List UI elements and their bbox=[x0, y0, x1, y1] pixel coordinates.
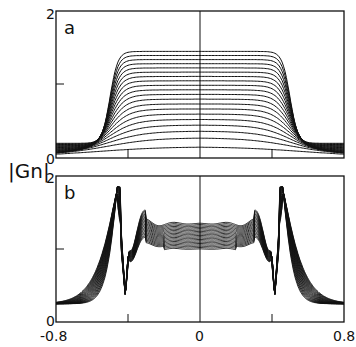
figure: 2 0 2 0 a b |Gn| -0.8 0 0.8 bbox=[0, 0, 356, 347]
panel-b-label: b bbox=[64, 182, 75, 203]
x-tick-left: -0.8 bbox=[40, 328, 67, 344]
x-tick-mid: 0 bbox=[195, 328, 204, 344]
panel-b-ytick-bottom: 0 bbox=[46, 313, 55, 329]
x-tick-right: 0.8 bbox=[333, 328, 355, 344]
y-axis-label: |Gn| bbox=[8, 159, 50, 183]
panel-a-label: a bbox=[64, 17, 75, 38]
panel-a-ytick-top: 2 bbox=[46, 6, 55, 22]
